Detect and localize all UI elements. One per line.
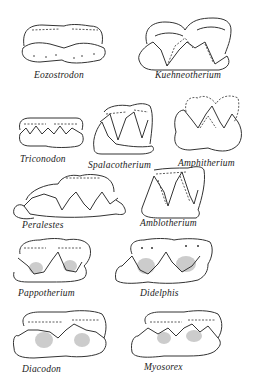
specimen-label: Peralestes [22,220,64,230]
tooth-drawing-triconodon [16,112,86,152]
tooth-drawing-myosorex [128,310,228,360]
specimen-amblotherium: Amblotherium [136,162,226,234]
specimen-label: Kuehneotherium [155,70,221,80]
tooth-drawing-pappotherium [10,236,94,284]
specimen-myosorex: Myosorex [128,310,228,374]
specimen-label: Didelphis [140,288,179,298]
specimen-spalacotherium: Spalacotherium [90,100,170,170]
specimen-label: Eozostrodon [34,70,84,80]
tooth-drawing-peralestes [10,170,130,218]
figure-caption-fragment [0,0,254,4]
specimen-amphitherium: Amphitherium [168,92,254,170]
specimen-label: Triconodon [20,154,66,164]
specimen-label: Amblotherium [140,218,197,228]
specimen-didelphis: Didelphis [112,236,222,300]
specimen-peralestes: Peralestes [10,170,130,234]
specimen-pappotherium: Pappotherium [10,236,94,300]
tooth-drawing-didelphis [112,236,222,284]
specimen-label: Diacodon [22,364,61,374]
specimen-label: Pappotherium [18,288,75,298]
tooth-drawing-diacodon [10,308,110,360]
tooth-drawing-kuehneotherium [135,14,245,69]
tooth-drawing-spalacotherium [90,100,170,155]
specimen-triconodon: Triconodon [16,112,86,162]
specimen-label: Myosorex [144,362,183,372]
specimen-kuehneotherium: Kuehneotherium [135,14,245,84]
tooth-drawing-eozostrodon [20,20,110,65]
tooth-drawing-amblotherium [136,162,226,218]
tooth-drawing-amphitherium [168,92,254,154]
specimen-eozostrodon: Eozostrodon [20,20,110,80]
specimen-diacodon: Diacodon [10,308,110,374]
